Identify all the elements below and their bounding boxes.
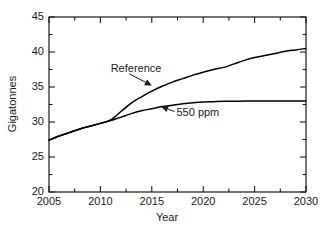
x-tick-label: 2030 bbox=[286, 196, 326, 207]
annotation-arrows bbox=[129, 74, 174, 112]
y-tick-label: 20 bbox=[22, 186, 44, 197]
annotation-leader-line bbox=[129, 74, 145, 83]
x-tick-label: 2010 bbox=[80, 196, 120, 207]
x-tick-label: 2020 bbox=[183, 196, 223, 207]
x-tick-label: 2005 bbox=[29, 196, 69, 207]
y-tick-label: 45 bbox=[22, 11, 44, 22]
y-tick-label: 25 bbox=[22, 151, 44, 162]
y-tick-label: 40 bbox=[22, 46, 44, 57]
annotation-leader-line bbox=[168, 109, 175, 111]
y-axis-title: Gigatonnes bbox=[6, 75, 18, 132]
y-tick-label: 30 bbox=[22, 116, 44, 127]
x-tick-label: 2025 bbox=[235, 196, 275, 207]
data-series-group bbox=[49, 49, 306, 141]
chart-figure: Gigatonnes 200520102015202020252030 2025… bbox=[0, 0, 334, 235]
annotation-label-reference: Reference bbox=[111, 63, 162, 74]
x-tick-label: 2015 bbox=[132, 196, 172, 207]
annotation-arrowhead bbox=[161, 106, 169, 112]
annotation-label-550-ppm: 550 ppm bbox=[176, 107, 219, 118]
y-tick-label: 35 bbox=[22, 81, 44, 92]
x-axis-title: Year bbox=[0, 212, 334, 223]
